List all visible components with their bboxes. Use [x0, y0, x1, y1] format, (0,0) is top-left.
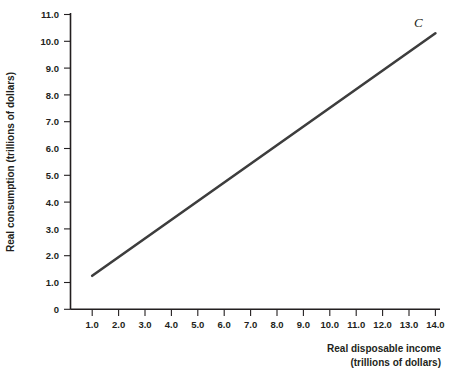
x-tick-label-5: 5.0: [191, 319, 204, 330]
x-tick-label-6: 6.0: [218, 319, 231, 330]
y-tick-label-8: 8.0: [46, 90, 59, 101]
y-tick-label-0: 0: [54, 304, 59, 315]
y-tick-label-3: 3.0: [46, 224, 59, 235]
x-tick-label-2: 2.0: [112, 319, 125, 330]
x-tick-label-14: 14.0: [426, 319, 445, 330]
x-tick-label-9: 9.0: [297, 319, 310, 330]
y-tick-label-10: 10.0: [41, 36, 60, 47]
x-tick-label-12: 12.0: [373, 319, 392, 330]
y-tick-label-9: 9.0: [46, 63, 59, 74]
x-tick-label-7: 7.0: [244, 319, 257, 330]
y-tick-label-5: 5.0: [46, 170, 59, 181]
y-tick-label-4: 4.0: [46, 197, 59, 208]
x-axis-title-units: (trillions of dollars): [350, 357, 441, 368]
x-tick-label-4: 4.0: [165, 319, 178, 330]
x-tick-label-3: 3.0: [138, 319, 151, 330]
y-axis-title: Real consumption (trillions of dollars): [5, 72, 16, 252]
y-tick-label-6: 6.0: [46, 143, 59, 154]
chart-canvas: 11.0 10.0 9.0 8.0 7.0 6.0 5.0 4.0 3.0 2.…: [0, 0, 454, 376]
curve-label-c: C: [414, 15, 423, 30]
y-tick-label-7: 7.0: [46, 116, 59, 127]
x-axis-title: Real disposable income: [327, 343, 441, 354]
consumption-function-chart: 11.0 10.0 9.0 8.0 7.0 6.0 5.0 4.0 3.0 2.…: [0, 0, 454, 376]
y-tick-label-11: 11.0: [41, 9, 59, 20]
x-tick-label-10: 10.0: [321, 319, 340, 330]
x-tick-label-1: 1.0: [86, 319, 99, 330]
x-tick-label-8: 8.0: [270, 319, 283, 330]
x-tick-label-11: 11.0: [347, 319, 365, 330]
y-tick-label-2: 2.0: [46, 250, 59, 261]
x-tick-label-13: 13.0: [400, 319, 419, 330]
y-tick-label-1: 1.0: [46, 277, 59, 288]
